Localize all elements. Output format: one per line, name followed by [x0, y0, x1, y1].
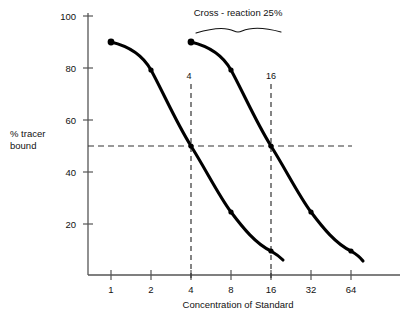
y-tick-label-60: 60 — [65, 115, 76, 126]
x-tick-label-64: 64 — [346, 284, 357, 295]
x-tick-label-2: 2 — [148, 284, 153, 295]
cross-reaction-brace-icon — [196, 28, 281, 33]
ed50-label-16: 16 — [266, 71, 276, 81]
x-tick-label-32: 32 — [306, 284, 317, 295]
y-axis-title-line2: bound — [10, 140, 36, 151]
y-axis-title-line1: % tracer — [10, 128, 45, 139]
series-standard-curve — [111, 42, 283, 260]
x-tick-label-8: 8 — [228, 284, 233, 295]
series-crossreactant-curve — [191, 42, 363, 261]
y-tick-label-80: 80 — [65, 63, 76, 74]
chart-title: Cross - reaction 25% — [194, 7, 283, 18]
x-tick-label-4: 4 — [188, 284, 193, 295]
x-tick-label-16: 16 — [266, 284, 277, 295]
chart-canvas: Cross - reaction 25% 100 80 60 40 20 % t… — [0, 0, 411, 318]
y-tick-label-100: 100 — [60, 11, 76, 22]
x-tick-label-1: 1 — [108, 284, 113, 295]
y-tick-label-20: 20 — [65, 219, 76, 230]
chart-figure: Cross - reaction 25% 100 80 60 40 20 % t… — [0, 0, 411, 318]
ed50-label-4: 4 — [186, 71, 191, 81]
x-axis-title: Concentration of Standard — [183, 299, 294, 310]
y-tick-label-40: 40 — [65, 167, 76, 178]
